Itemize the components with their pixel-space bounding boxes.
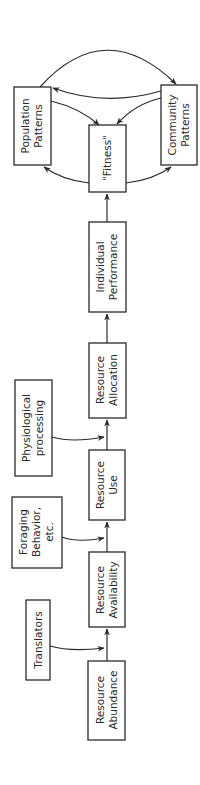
node-label: etc. — [43, 522, 55, 542]
node-label: Individual — [94, 241, 106, 292]
node-label: Resource — [94, 676, 106, 724]
node-resource-use: Resource Use — [89, 450, 125, 520]
node-label: Translators — [32, 611, 44, 669]
node-physiological-processing: Physiological processing — [15, 380, 52, 476]
edge-foraging — [62, 537, 104, 540]
edge-population-to-community — [40, 50, 176, 87]
node-label: Resource — [94, 356, 106, 404]
node-individual-performance: Individual Performance — [89, 222, 126, 312]
node-label: Resource — [94, 566, 106, 614]
node-label: Patterns — [179, 103, 191, 146]
node-translators: Translators — [26, 600, 50, 680]
node-community-patterns: Community Patterns — [161, 85, 197, 165]
node-label: Allocation — [107, 354, 119, 406]
node-label: processing — [33, 400, 45, 457]
node-label: Behavior, — [30, 507, 42, 557]
edge-fitness-to-population — [44, 167, 89, 183]
edge-fitness-to-community — [126, 167, 171, 183]
node-resource-availability: Resource Availability — [89, 552, 125, 627]
edge-physiological — [52, 437, 104, 440]
node-label: Population — [19, 98, 31, 153]
node-foraging-behavior: Foraging Behavior, etc. — [12, 497, 62, 568]
node-resource-allocation: Resource Allocation — [89, 343, 126, 418]
node-label: Patterns — [32, 104, 44, 147]
node-label: Physiological — [20, 394, 32, 462]
node-resource-abundance: Resource Abundance — [88, 661, 125, 740]
edge-translators — [50, 646, 104, 650]
node-population-patterns: Population Patterns — [14, 87, 51, 165]
node-label: Foraging — [17, 509, 29, 555]
edge-community-to-population — [53, 88, 161, 98]
node-label: Resource — [94, 461, 106, 509]
node-fitness: "Fitness" — [89, 125, 126, 192]
node-label: Performance — [107, 234, 119, 301]
node-label: Availability — [107, 561, 119, 618]
edge-population-to-fitness — [51, 101, 99, 125]
flow-diagram: Population Patterns "Fitness" Community … — [0, 0, 200, 785]
node-label: Community — [166, 95, 178, 156]
node-label: Abundance — [107, 670, 119, 729]
node-label: "Fitness" — [101, 135, 113, 181]
edge-community-to-fitness — [117, 98, 161, 124]
node-label: Use — [107, 475, 119, 495]
